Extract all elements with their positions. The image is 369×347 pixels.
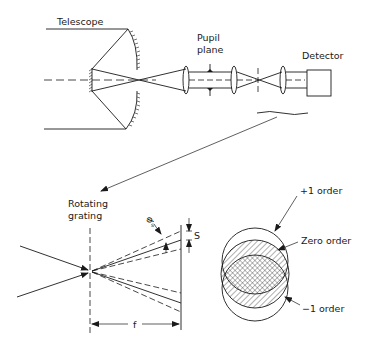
pupil-label-line1: Pupil [197, 32, 220, 43]
s-dimension: S [186, 218, 200, 253]
detail-brace [257, 112, 308, 115]
minus-one-leader [285, 297, 300, 305]
grating-label-line1: Rotating [68, 198, 108, 209]
optical-diagram: Telescope Pupil plane [0, 0, 369, 347]
diffracted-upper-zero [92, 240, 181, 271]
grating-label-line2: grating [68, 210, 102, 221]
ray-primary-to-secondary-top [92, 29, 128, 69]
callout-arrow [101, 117, 277, 191]
plus-one-order-label: +1 order [300, 185, 342, 196]
plus-one-leader [275, 196, 297, 231]
grating-detail: Rotating grating φ s S [17, 198, 200, 333]
diffraction-orders: +1 order Zero order −1 order [221, 185, 351, 321]
primary-mirror-lower [126, 91, 140, 129]
incoming-ray-upper [20, 246, 88, 270]
diffracted-lower-zero [92, 272, 181, 303]
pupil-label-line2: plane [197, 44, 224, 55]
minus-one-order-label: −1 order [302, 303, 344, 314]
lens-2 [231, 66, 237, 94]
f-label: f [133, 319, 137, 330]
detector-label: Detector [302, 50, 343, 61]
f-dimension: f [92, 319, 179, 330]
secondary-mirror [89, 68, 92, 92]
zero-order-leader [278, 242, 298, 250]
detector: Detector [302, 50, 343, 96]
s-label: S [194, 230, 200, 241]
incoming-ray-lower [17, 273, 88, 297]
phi-arrow-upper [154, 224, 161, 234]
zero-order-label: Zero order [301, 235, 351, 246]
lens-1 [183, 66, 189, 94]
diffracted-lower-plus [92, 272, 181, 293]
diffracted-lower-minus [92, 272, 181, 312]
relay-optics: Pupil plane [183, 32, 307, 96]
diffracted-upper-minus [92, 249, 181, 271]
ray-primary-to-secondary-bottom [92, 91, 126, 129]
diffracted-upper-plus [92, 231, 181, 271]
telescope: Telescope [44, 16, 186, 129]
phi-subscript: s [151, 221, 154, 228]
telescope-label: Telescope [56, 16, 104, 27]
detector-box [307, 70, 331, 96]
lens-3 [280, 66, 286, 94]
primary-mirror-upper [128, 29, 140, 70]
